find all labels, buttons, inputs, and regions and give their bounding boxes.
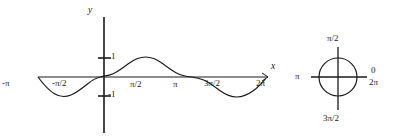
figure-vector-layer: [0, 0, 399, 139]
y-tick-label-one: 1: [111, 52, 116, 61]
x-tick-label-2-pi: 2π: [256, 79, 265, 88]
trigonometry-figure: y x 1 -1 -π -π/2 π/2 π 3π/2 2π π/2 π 0 2…: [0, 0, 399, 139]
x-tick-label-3-pi-over-2: 3π/2: [204, 79, 220, 88]
unit-circle-label-3-pi-over-2: 3π/2: [323, 114, 339, 123]
x-tick-label-pi-over-2: π/2: [130, 80, 142, 89]
x-tick-label-pi: π: [173, 80, 178, 89]
y-axis-label: y: [88, 6, 92, 16]
unit-circle-label-2-pi: 2π: [369, 78, 378, 87]
unit-circle-label-pi-over-2: π/2: [327, 34, 339, 43]
x-tick-label-neg-pi: -π: [2, 79, 10, 88]
unit-circle-label-pi: π: [295, 72, 300, 81]
x-axis-label: x: [271, 62, 275, 72]
x-tick-label-neg-pi-over-2: -π/2: [52, 79, 67, 88]
unit-circle-label-zero: 0: [371, 66, 376, 75]
y-tick-label-negative-one: -1: [108, 90, 116, 99]
